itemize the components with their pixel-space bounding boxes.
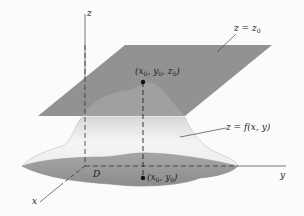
z-axis-label: z (87, 9, 92, 18)
max-point (141, 80, 145, 84)
max-point-label: (x0, y0, z0) (135, 67, 180, 77)
surface-label: z = f(x, y) (226, 123, 270, 132)
base-point-label: (x0, y0) (147, 173, 178, 183)
x-axis-label: x (32, 197, 37, 206)
domain-label: D (93, 170, 100, 179)
y-axis-label: y (280, 171, 285, 180)
x-axis (40, 184, 62, 202)
base-point (141, 176, 145, 180)
plane-label: z = z0 (234, 24, 261, 34)
diagram-canvas: z y x z = z0 z = f(x, y) D (x0, y0, z0) … (0, 0, 304, 216)
